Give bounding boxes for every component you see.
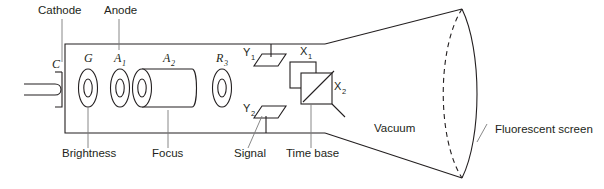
label-focus: Focus xyxy=(152,147,184,159)
label-fluorescent-screen: Fluorescent screen xyxy=(495,123,593,135)
fluorescent-screen-face xyxy=(462,9,477,178)
grid-electrode-g xyxy=(79,69,98,107)
label-electrode-r3: R xyxy=(215,51,224,65)
label-plate-x2: X xyxy=(334,80,342,92)
anode-electrode-r3 xyxy=(213,69,232,107)
label-vacuum: Vacuum xyxy=(374,122,415,134)
label-electrode-a2-subscript: 2 xyxy=(171,59,175,68)
label-brightness: Brightness xyxy=(62,147,117,159)
label-plate-x1-subscript: 1 xyxy=(308,52,312,61)
label-plate-y2: Y xyxy=(243,102,251,114)
label-cathode: Cathode xyxy=(38,4,81,16)
label-plate-y1: Y xyxy=(243,46,251,58)
deflection-plate-y2 xyxy=(254,106,286,133)
label-plate-y1-subscript: 1 xyxy=(251,53,255,62)
screen-back-edge-dashed xyxy=(443,9,462,178)
label-electrode-a1-subscript: 1 xyxy=(122,59,126,68)
deflection-plate-x2 xyxy=(301,71,345,117)
crt-diagram-figure: Cathode Anode Brightness Focus Signal Ti… xyxy=(0,0,604,189)
label-time-base: Time base xyxy=(286,147,339,159)
leader-line-signal xyxy=(248,116,262,148)
label-electrode-c: C xyxy=(52,57,61,71)
label-electrode-r3-subscript: 3 xyxy=(223,59,228,68)
deflection-plate-y1 xyxy=(254,44,286,66)
leader-line-fluorescent-screen xyxy=(477,124,487,142)
label-anode: Anode xyxy=(104,4,137,16)
label-plate-y2-subscript: 2 xyxy=(251,109,255,118)
label-electrode-a2: A xyxy=(162,51,171,65)
label-plate-x2-subscript: 2 xyxy=(342,87,346,96)
label-electrode-a1: A xyxy=(113,51,122,65)
label-electrode-g: G xyxy=(84,51,93,65)
anode-electrode-a1 xyxy=(111,69,130,107)
label-plate-x1: X xyxy=(300,45,308,57)
label-signal: Signal xyxy=(234,147,266,159)
cathode-filament xyxy=(24,72,62,107)
crt-diagram-svg: Cathode Anode Brightness Focus Signal Ti… xyxy=(0,0,604,189)
anode-electrode-a2 xyxy=(133,69,197,107)
